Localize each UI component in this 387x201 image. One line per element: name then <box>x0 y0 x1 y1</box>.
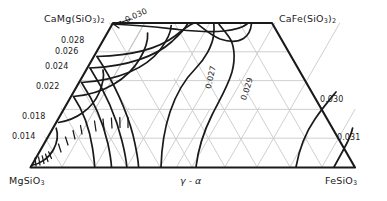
hachure-ticks <box>35 118 128 167</box>
contour-label-right-0030: 0.030 <box>320 96 343 104</box>
contour-label-0022: 0.022 <box>36 83 59 91</box>
contour-0022-lower <box>74 97 95 168</box>
corner-label-mgsio3: MgSiO3 <box>9 176 45 187</box>
ternary-contour-diagram: CaMg(SiO3)2 CaFe(SiO3)2 MgSiO3 FeSiO3 γ … <box>0 0 387 201</box>
contour-label-0026: 0.026 <box>55 48 78 56</box>
contour-label-0024: 0.024 <box>45 63 68 71</box>
corner-label-cafe: CaFe(SiO3)2 <box>279 14 336 25</box>
contour-label-right-0031: 0.031 <box>337 134 360 142</box>
contour-label-0018: 0.018 <box>22 113 45 121</box>
contour-label-0014: 0.014 <box>12 133 35 141</box>
contour-0026-lower <box>90 68 127 167</box>
corner-label-camg: CaMg(SiO3)2 <box>44 14 105 25</box>
contour-label-0028: 0.028 <box>61 37 84 45</box>
axis-label-gamma-alpha: γ - α <box>180 176 201 186</box>
corner-label-fesio3: FeSiO3 <box>325 176 357 187</box>
contour-0030-top <box>112 24 247 32</box>
